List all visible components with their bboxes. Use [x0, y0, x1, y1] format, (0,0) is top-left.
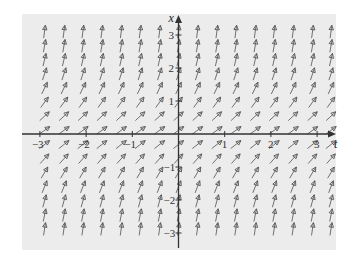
x-tick-label: −2	[164, 194, 176, 206]
x-tick-label: −3	[164, 227, 176, 239]
x-tick-label: 2	[169, 62, 175, 74]
t-tick-label: −1	[124, 138, 136, 150]
x-tick-label: −1	[164, 161, 176, 173]
t-tick-label: 3	[314, 138, 320, 150]
x-axis-label: x	[168, 11, 175, 25]
t-tick-label: −2	[78, 138, 90, 150]
direction-field-chart: −3−2−1123−3−2−1123tx	[0, 0, 353, 260]
x-tick-label: 1	[169, 95, 175, 107]
t-tick-label: 2	[268, 138, 274, 150]
t-tick-label: 1	[222, 138, 228, 150]
x-tick-label: 3	[169, 29, 175, 41]
t-tick-label: −3	[32, 138, 44, 150]
t-axis-label: t	[334, 137, 338, 151]
